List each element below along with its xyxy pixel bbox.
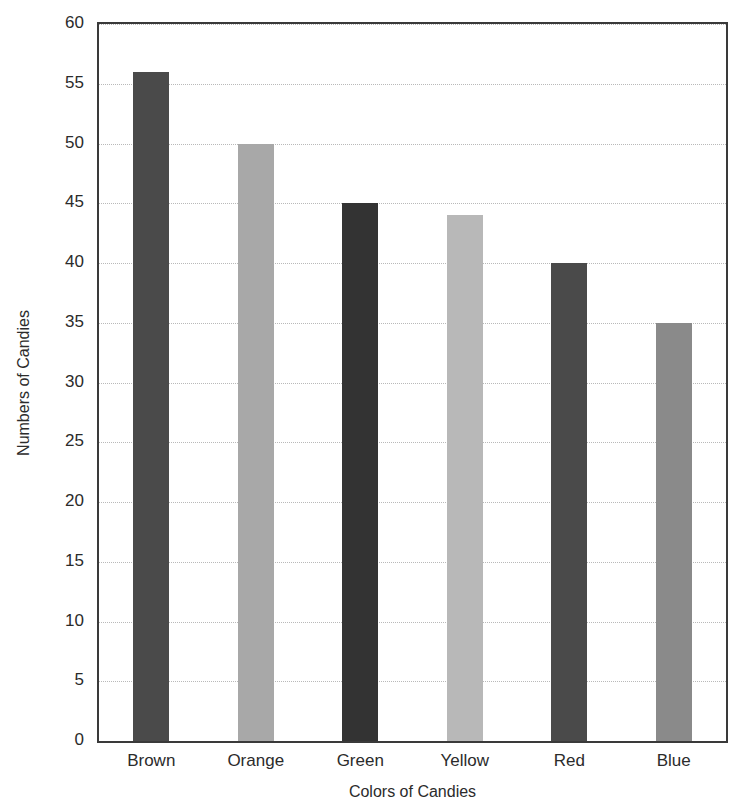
gridline: [99, 323, 726, 324]
y-tick-label: 45: [12, 192, 84, 212]
x-tick-label-blue: Blue: [614, 751, 734, 771]
gridline: [99, 562, 726, 563]
gridline: [99, 681, 726, 682]
x-tick-label-red: Red: [509, 751, 629, 771]
gridline: [99, 383, 726, 384]
bar-yellow[interactable]: [447, 215, 483, 741]
y-tick-label: 0: [12, 730, 84, 750]
gridline: [99, 442, 726, 443]
bar-green[interactable]: [342, 203, 378, 741]
bar-blue[interactable]: [656, 323, 692, 741]
y-tick-label: 35: [12, 312, 84, 332]
gridline: [99, 144, 726, 145]
gridline: [99, 84, 726, 85]
x-axis-title: Colors of Candies: [97, 783, 728, 801]
plot-area: [97, 22, 728, 743]
y-tick-label: 25: [12, 431, 84, 451]
y-tick-label: 40: [12, 252, 84, 272]
y-tick-label: 50: [12, 133, 84, 153]
gridline: [99, 502, 726, 503]
y-tick-label: 60: [12, 13, 84, 33]
gridline: [99, 263, 726, 264]
x-tick-label-green: Green: [300, 751, 420, 771]
gridline: [99, 622, 726, 623]
y-tick-label: 5: [12, 670, 84, 690]
y-tick-label: 10: [12, 611, 84, 631]
bar-red[interactable]: [551, 263, 587, 741]
bar-orange[interactable]: [238, 144, 274, 742]
gridline: [99, 24, 726, 25]
x-tick-label-brown: Brown: [91, 751, 211, 771]
y-tick-label: 15: [12, 551, 84, 571]
gridline: [99, 203, 726, 204]
y-tick-label: 20: [12, 491, 84, 511]
bar-chart-figure: Numbers of Candies 051015202530354045505…: [0, 0, 737, 808]
bar-brown[interactable]: [133, 72, 169, 741]
x-tick-label-yellow: Yellow: [405, 751, 525, 771]
y-tick-label: 30: [12, 372, 84, 392]
y-tick-label: 55: [12, 73, 84, 93]
x-tick-label-orange: Orange: [196, 751, 316, 771]
